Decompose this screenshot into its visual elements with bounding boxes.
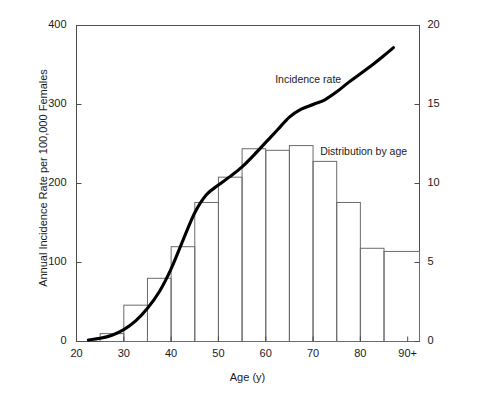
- y-tick-right-0: 0: [428, 334, 434, 346]
- y-tick-left-100: 100: [0, 255, 67, 267]
- axes-frame: [77, 26, 420, 342]
- histogram-bar: [384, 251, 419, 341]
- y-tick-right-15: 15: [428, 97, 440, 109]
- histogram-bar: [266, 150, 290, 341]
- x-tick-90plus: 90+: [368, 347, 448, 359]
- annotation-incidence-rate: Incidence rate: [275, 73, 341, 85]
- histogram-bar: [337, 202, 361, 341]
- histogram-bar: [242, 149, 266, 342]
- y-tick-left-400: 400: [0, 18, 67, 30]
- incidence-rate-chart: Annual Incidence Rate per 100,000 Female…: [0, 0, 495, 401]
- axis-ticks: [77, 26, 420, 342]
- y-tick-left-200: 200: [0, 176, 67, 188]
- histogram-bar: [360, 248, 384, 341]
- histogram-bar: [147, 278, 171, 341]
- bars-group: [100, 146, 419, 342]
- histogram-bar: [289, 146, 313, 342]
- chart-plot-area: [0, 0, 495, 401]
- annotation-distribution-by-age: Distribution by age: [320, 145, 407, 157]
- y-tick-right-20: 20: [428, 18, 440, 30]
- y-tick-right-5: 5: [428, 255, 434, 267]
- incidence-rate-curve: [88, 48, 393, 340]
- x-axis-label: Age (y): [0, 371, 495, 383]
- y-tick-right-10: 10: [428, 176, 440, 188]
- y-tick-left-300: 300: [0, 97, 67, 109]
- histogram-bar: [218, 177, 242, 341]
- incidence-line: [88, 48, 393, 340]
- histogram-bar: [195, 202, 219, 341]
- y-tick-left-0: 0: [0, 334, 67, 346]
- histogram-bar: [313, 161, 337, 341]
